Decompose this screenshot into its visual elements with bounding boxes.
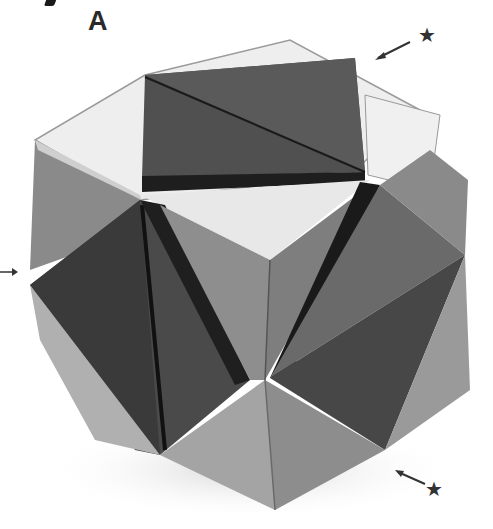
origami-cube-illustration: ★ ★ (0, 0, 493, 529)
arrow-marker-left (0, 268, 18, 276)
arrow-marker-top-right: ★ (375, 23, 436, 60)
star-icon: ★ (418, 23, 436, 47)
star-icon: ★ (425, 477, 443, 501)
